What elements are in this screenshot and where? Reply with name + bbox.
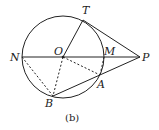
label-T: T — [82, 4, 91, 17]
segment-OT — [63, 20, 83, 57]
dashed-OB — [53, 57, 63, 96]
label-O: O — [54, 45, 63, 58]
label-A: A — [96, 78, 105, 91]
label-N: N — [9, 51, 20, 64]
label-P: P — [141, 51, 150, 64]
caption: (b) — [65, 112, 79, 123]
label-M: M — [103, 45, 116, 58]
label-B: B — [44, 97, 53, 110]
dashed-OA — [63, 57, 100, 75]
geometry-diagram: T N O M P A B (b) — [0, 0, 159, 130]
